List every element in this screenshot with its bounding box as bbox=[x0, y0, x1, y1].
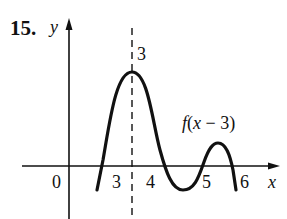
peak-value-label: 3 bbox=[137, 44, 146, 64]
x-tick-label-5: 5 bbox=[202, 172, 211, 192]
x-axis-arrow-icon bbox=[268, 163, 280, 170]
y-axis-arrow-icon bbox=[66, 18, 73, 30]
x-axis-label: x bbox=[267, 172, 276, 192]
origin-label: 0 bbox=[52, 172, 61, 192]
y-axis-label: y bbox=[48, 17, 58, 37]
problem-number: 15. bbox=[10, 16, 36, 40]
x-tick-label-4: 4 bbox=[146, 172, 155, 192]
graph-figure: 15. y x 0 3 4 5 6 3 f(x − 3) bbox=[0, 0, 287, 219]
x-tick-label-6: 6 bbox=[240, 172, 249, 192]
function-label: f(x − 3) bbox=[182, 113, 235, 134]
x-tick-label-3: 3 bbox=[112, 172, 121, 192]
